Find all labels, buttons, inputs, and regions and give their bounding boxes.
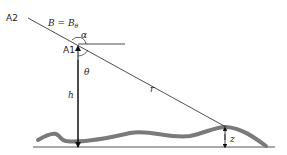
label-alpha: α xyxy=(81,30,87,40)
label-a2: A2 xyxy=(6,13,18,23)
label-r: r xyxy=(150,84,155,94)
label-z: z xyxy=(229,134,235,144)
label-h: h xyxy=(68,90,74,100)
label-theta: θ xyxy=(84,67,90,77)
label-a1: A1 xyxy=(63,45,75,55)
geometry-diagram: A2 A1 B = Bθ α θ h r z xyxy=(0,0,287,155)
theta-angle-arc xyxy=(78,50,88,56)
label-b-equals: B = Bθ xyxy=(47,18,79,29)
slant-line-r xyxy=(28,18,226,127)
